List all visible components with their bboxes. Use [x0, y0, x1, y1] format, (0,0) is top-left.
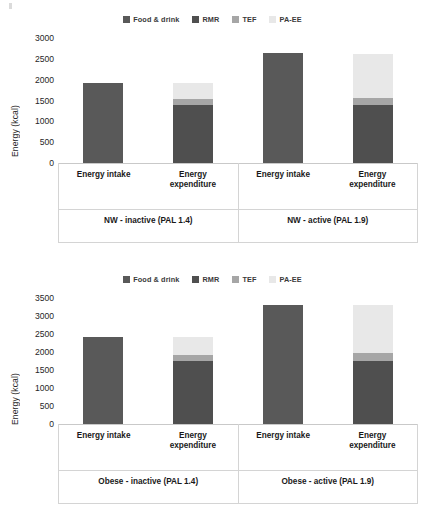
figure-root: Food & drinkRMRTEFPA-EEEnergy (kcal)3000…	[0, 0, 425, 505]
legend-food-drink[interactable]: Food & drink	[123, 16, 179, 23]
bar-segment-rmr	[353, 361, 393, 424]
bar-segment-tef	[353, 98, 393, 105]
y-axis-tick-label: 500	[40, 401, 54, 411]
legend-swatch-icon	[123, 276, 130, 283]
legend-swatch-icon	[232, 16, 239, 23]
legend-swatch-icon	[269, 16, 276, 23]
bar-segment-tef	[353, 353, 393, 360]
y-axis-tick-label: 1000	[35, 116, 54, 126]
category-label-energy-intake: Energy intake	[239, 424, 328, 470]
y-axis-tick-label: 2500	[35, 329, 54, 339]
bar-segment-food-drink	[83, 337, 123, 424]
bar-nw-g1-expenditure[interactable]	[353, 54, 393, 163]
bar-obese-g1-intake[interactable]	[263, 305, 303, 424]
y-axis-tick-label: 0	[49, 419, 54, 429]
category-label-energy-expenditure: Energyexpenditure	[328, 424, 417, 470]
y-axis-tick-label: 2000	[35, 347, 54, 357]
category-label-energy-intake: Energy intake	[59, 424, 148, 470]
bar-segment-food-drink	[263, 53, 303, 163]
y-axis-tick-label: 2500	[35, 54, 54, 64]
bar-obese-g0-expenditure[interactable]	[173, 337, 213, 424]
legend-pa-ee[interactable]: PA-EE	[269, 276, 301, 283]
legend-tef[interactable]: TEF	[232, 16, 256, 23]
category-axis-table: Energy intakeEnergyexpenditureNW - inact…	[58, 163, 418, 243]
bar-obese-g1-expenditure[interactable]	[353, 305, 393, 424]
plot-area	[58, 38, 418, 164]
y-axis-ticks: 300025002000150010005000	[18, 0, 54, 173]
group-label: NW - active (PAL 1.9)	[239, 209, 418, 242]
legend-label: RMR	[202, 276, 219, 283]
category-label-energy-expenditure: Energyexpenditure	[148, 163, 237, 209]
y-axis-tick-label: 3000	[35, 311, 54, 321]
legend-label: Food & drink	[133, 276, 179, 283]
legend-label: PA-EE	[279, 276, 301, 283]
plot-area	[58, 298, 418, 425]
bar-obese-g0-intake[interactable]	[83, 337, 123, 424]
group-label: Obese - inactive (PAL 1.4)	[59, 470, 238, 503]
legend-label: RMR	[202, 16, 219, 23]
bar-nw-g1-intake[interactable]	[263, 53, 303, 163]
category-label-energy-intake: Energy intake	[239, 163, 328, 209]
bar-nw-g0-intake[interactable]	[83, 83, 123, 163]
y-axis-ticks: 3500300025002000150010005000	[18, 262, 54, 434]
category-axis-table: Energy intakeEnergyexpenditureObese - in…	[58, 424, 418, 504]
bar-segment-rmr	[353, 105, 393, 163]
chart-legend: Food & drinkRMRTEFPA-EE	[0, 272, 425, 288]
legend-label: TEF	[242, 16, 256, 23]
bar-segment-rmr	[173, 105, 213, 163]
bar-segment-food-drink	[263, 305, 303, 424]
y-axis-tick-label: 1500	[35, 365, 54, 375]
group-label: Obese - active (PAL 1.9)	[239, 470, 418, 503]
chart-legend: Food & drinkRMRTEFPA-EE	[0, 12, 425, 28]
y-axis-tick-label: 0	[49, 158, 54, 168]
legend-swatch-icon	[192, 276, 199, 283]
bar-nw-g0-expenditure[interactable]	[173, 83, 213, 163]
y-axis-tick-label: 2000	[35, 75, 54, 85]
bar-segment-pa-ee	[353, 305, 393, 353]
category-label-energy-expenditure: Energyexpenditure	[328, 163, 417, 209]
category-label-row: Energy intakeEnergyexpenditure	[239, 163, 418, 209]
legend-swatch-icon	[192, 16, 199, 23]
legend-food-drink[interactable]: Food & drink	[123, 276, 179, 283]
category-group: Energy intakeEnergyexpenditureNW - activ…	[238, 163, 418, 242]
bar-segment-rmr	[173, 361, 213, 424]
category-group: Energy intakeEnergyexpenditureObese - in…	[59, 424, 238, 503]
bar-segment-pa-ee	[173, 83, 213, 99]
y-axis-tick-label: 1500	[35, 96, 54, 106]
legend-pa-ee[interactable]: PA-EE	[269, 16, 301, 23]
legend-rmr[interactable]: RMR	[192, 16, 219, 23]
category-label-energy-expenditure: Energyexpenditure	[148, 424, 237, 470]
legend-swatch-icon	[232, 276, 239, 283]
chart-normal-weight: Food & drinkRMRTEFPA-EEEnergy (kcal)3000…	[0, 0, 425, 256]
y-axis-tick-label: 500	[40, 137, 54, 147]
legend-tef[interactable]: TEF	[232, 276, 256, 283]
legend-swatch-icon	[123, 16, 130, 23]
legend-label: TEF	[242, 276, 256, 283]
bar-segment-pa-ee	[353, 54, 393, 99]
group-label: NW - inactive (PAL 1.4)	[59, 209, 238, 242]
category-label-energy-intake: Energy intake	[59, 163, 148, 209]
category-group: Energy intakeEnergyexpenditureObese - ac…	[238, 424, 418, 503]
y-axis-tick-label: 3000	[35, 33, 54, 43]
legend-label: PA-EE	[279, 16, 301, 23]
y-axis-tick-label: 1000	[35, 383, 54, 393]
chart-obese: Food & drinkRMRTEFPA-EEEnergy (kcal)3500…	[0, 262, 425, 505]
legend-rmr[interactable]: RMR	[192, 276, 219, 283]
bar-segment-food-drink	[83, 83, 123, 163]
category-label-row: Energy intakeEnergyexpenditure	[59, 163, 238, 209]
category-label-row: Energy intakeEnergyexpenditure	[59, 424, 238, 470]
legend-label: Food & drink	[133, 16, 179, 23]
legend-swatch-icon	[269, 276, 276, 283]
category-group: Energy intakeEnergyexpenditureNW - inact…	[59, 163, 238, 242]
bar-segment-pa-ee	[173, 337, 213, 355]
y-axis-tick-label: 3500	[35, 293, 54, 303]
category-label-row: Energy intakeEnergyexpenditure	[239, 424, 418, 470]
